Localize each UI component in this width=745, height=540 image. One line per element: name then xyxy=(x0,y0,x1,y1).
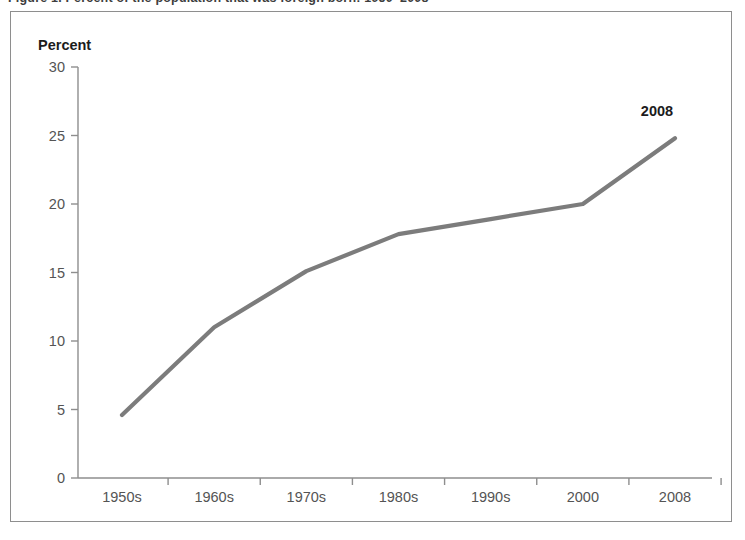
y-axis-label: Percent xyxy=(38,37,91,53)
x-tick-label-2008: 2008 xyxy=(659,489,691,505)
annotation-2008: 2008 xyxy=(641,103,673,119)
x-tick-label-1980s: 1980s xyxy=(379,489,419,505)
y-axis-ticks: 051015202530 xyxy=(49,59,78,486)
x-tick-label-2000: 2000 xyxy=(567,489,599,505)
x-tick-label-1960s: 1960s xyxy=(194,489,234,505)
y-tick-label-20: 20 xyxy=(49,196,65,212)
x-tick-label-1970s: 1970s xyxy=(287,489,327,505)
x-tick-label-1990s: 1990s xyxy=(471,489,511,505)
x-axis-ticks: 1950s1960s1970s1980s1990s20002008 xyxy=(102,478,721,505)
line-chart: Percent 051015202530 1950s1960s1970s1980… xyxy=(0,0,745,540)
y-tick-label-30: 30 xyxy=(49,59,65,75)
y-tick-label-0: 0 xyxy=(57,470,65,486)
y-tick-label-25: 25 xyxy=(49,128,65,144)
y-tick-label-15: 15 xyxy=(49,265,65,281)
chart-svg: Percent 051015202530 1950s1960s1970s1980… xyxy=(0,0,745,540)
y-tick-label-10: 10 xyxy=(49,333,65,349)
y-tick-label-5: 5 xyxy=(57,402,65,418)
data-series-line xyxy=(122,138,675,415)
x-tick-label-1950s: 1950s xyxy=(102,489,142,505)
